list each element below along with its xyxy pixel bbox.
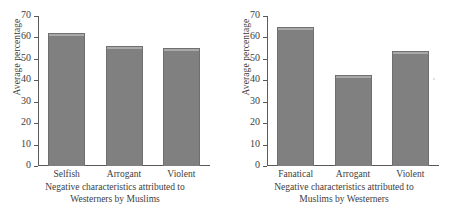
y-tick-label-right-0: 0 [255, 159, 260, 171]
x-tick-label-left-arrogant: Arrogant [95, 169, 152, 180]
y-tick-label-right-40: 40 [250, 73, 260, 85]
bar-right-arrogant [335, 75, 372, 166]
y-tick-label-left-0: 0 [26, 159, 31, 171]
x-tick-label-left-selfish: Selfish [38, 169, 95, 180]
plot-area-left: 010203040506070 SelfishArrogantViolent [38, 16, 210, 166]
y-tick-label-right-20: 20 [250, 116, 260, 128]
bar-left-selfish [48, 33, 85, 166]
x-tick-label-right-arrogant: Arrogant [324, 169, 381, 180]
y-tick-label-left-30: 30 [21, 95, 31, 107]
bar-slot [48, 16, 85, 166]
y-tick-label-right-50: 50 [250, 52, 260, 64]
bar-slot [392, 16, 429, 166]
bar-right-fanatical [277, 27, 314, 166]
bar-slot [106, 16, 143, 166]
y-tick-label-left-60: 60 [21, 30, 31, 42]
y-tick-label-left-10: 10 [21, 138, 31, 150]
bar-right-violent [392, 51, 429, 166]
x-axis-title-left-line1: Negative characteristics attributed to [6, 181, 224, 193]
chart-panel-left: Average percentage 010203040506070 Selfi… [0, 0, 229, 219]
bar-slot [163, 16, 200, 166]
figure-root: Average percentage 010203040506070 Selfi… [0, 0, 458, 219]
x-tick-label-right-violent: Violent [382, 169, 439, 180]
bar-slot [335, 16, 372, 166]
y-tick-label-right-30: 30 [250, 95, 260, 107]
bar-slot [277, 16, 314, 166]
y-tick-label-left-70: 70 [21, 9, 31, 21]
chart-panel-right: Average percentage 010203040506070 Fanat… [229, 0, 458, 219]
y-tick-label-left-40: 40 [21, 73, 31, 85]
x-axis-title-right-line1: Negative characteristics attributed to [235, 181, 453, 193]
print-speck [433, 78, 435, 80]
y-tick-right-0: 0 [263, 166, 267, 167]
x-tick-label-left-violent: Violent [153, 169, 210, 180]
bar-left-violent [163, 48, 200, 166]
bar-left-arrogant [106, 46, 143, 166]
bar-group-right: FanaticalArrogantViolent [267, 16, 439, 166]
y-tick-label-right-60: 60 [250, 30, 260, 42]
x-tick-label-right-fanatical: Fanatical [267, 169, 324, 180]
y-tick-label-left-20: 20 [21, 116, 31, 128]
x-axis-title-left-line2: Westerners by Muslims [6, 193, 224, 205]
x-axis-title-right: Negative characteristics attributed to M… [235, 181, 453, 205]
bar-group-left: SelfishArrogantViolent [38, 16, 210, 166]
y-tick-label-right-70: 70 [250, 9, 260, 21]
x-axis-title-left: Negative characteristics attributed to W… [6, 181, 224, 205]
y-tick-label-left-50: 50 [21, 52, 31, 64]
y-tick-left-0: 0 [34, 166, 38, 167]
x-axis-title-right-line2: Muslims by Westerners [235, 193, 453, 205]
plot-area-right: 010203040506070 FanaticalArrogantViolent [267, 16, 439, 166]
y-tick-label-right-10: 10 [250, 138, 260, 150]
